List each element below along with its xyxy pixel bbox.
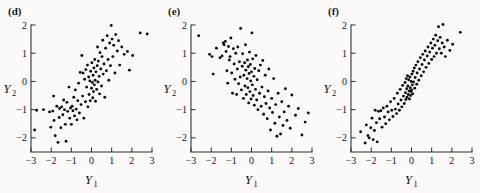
data-point [108, 42, 111, 45]
data-point [427, 62, 430, 65]
data-point [83, 78, 86, 81]
data-point [282, 124, 285, 127]
data-point [244, 69, 247, 72]
data-point [246, 77, 249, 80]
data-point [423, 59, 426, 62]
data-point [253, 67, 256, 70]
data-point [427, 46, 430, 49]
data-point [250, 70, 253, 73]
data-point [42, 108, 45, 111]
data-point [378, 117, 381, 120]
data-point [89, 99, 92, 102]
data-point [428, 51, 431, 54]
data-point [105, 69, 108, 72]
x-tick-label: 0 [249, 155, 254, 166]
data-point [233, 63, 236, 66]
data-point [252, 75, 255, 78]
data-point [242, 74, 245, 77]
data-point [430, 58, 433, 61]
data-point [82, 72, 85, 75]
data-point [439, 36, 442, 39]
data-point [79, 71, 82, 74]
data-point [279, 132, 282, 135]
data-point [384, 122, 387, 125]
data-point [278, 116, 281, 119]
data-point [88, 79, 91, 82]
data-point [416, 72, 419, 75]
panel-d: (d) −3−2−10123−2−1012Y1Y2 [0, 0, 160, 193]
data-point [93, 83, 96, 86]
data-point [94, 100, 97, 103]
data-point [99, 51, 102, 54]
data-point [286, 119, 289, 122]
data-point [58, 116, 61, 119]
data-point [60, 105, 63, 108]
data-point [254, 54, 257, 57]
data-point [231, 92, 234, 95]
data-point [80, 54, 83, 57]
data-point [412, 81, 415, 84]
data-point [84, 68, 87, 71]
data-point [260, 105, 263, 108]
data-point [54, 134, 57, 137]
data-point [433, 44, 436, 47]
data-point [256, 78, 259, 81]
data-point [290, 94, 293, 97]
data-point [262, 113, 265, 116]
data-point [374, 109, 377, 112]
data-point [90, 87, 93, 90]
x-tick-label: −3 [26, 155, 37, 166]
data-point [139, 31, 142, 34]
y-tick-label: 0 [182, 76, 187, 87]
data-point [113, 72, 116, 75]
data-point [94, 70, 97, 73]
data-point [397, 103, 400, 106]
x-tick-label: −2 [206, 155, 217, 166]
data-point [371, 117, 374, 120]
data-point [211, 55, 214, 58]
data-point [246, 86, 249, 89]
data-point [385, 105, 388, 108]
data-point [307, 112, 310, 115]
data-point [106, 34, 109, 37]
data-point [74, 88, 77, 91]
data-point [120, 46, 123, 49]
data-point [146, 33, 149, 36]
data-point [359, 130, 362, 133]
data-point [77, 82, 80, 85]
data-point [242, 97, 245, 100]
data-point [35, 109, 38, 112]
data-point [249, 79, 252, 82]
data-point [104, 47, 107, 50]
y-tick-label: 2 [342, 20, 347, 31]
data-point [277, 92, 280, 95]
data-point [403, 102, 406, 105]
data-point [61, 113, 64, 116]
data-point [255, 99, 258, 102]
data-point [261, 59, 264, 62]
data-point [408, 97, 411, 100]
data-point [248, 72, 251, 75]
data-point [76, 99, 79, 102]
data-point [90, 61, 93, 64]
x-tick-label: −3 [186, 155, 197, 166]
data-point [389, 100, 392, 103]
x-axis-title-subscript: 1 [413, 179, 417, 189]
data-point [410, 80, 413, 83]
data-point [275, 135, 278, 138]
data-point [87, 75, 90, 78]
data-point [244, 85, 247, 88]
data-point [128, 69, 131, 72]
data-point [421, 53, 424, 56]
data-point [86, 64, 89, 67]
data-point [265, 102, 268, 105]
data-point [274, 103, 277, 106]
data-point [446, 39, 449, 42]
data-point [112, 44, 115, 47]
y-tick-label: 2 [22, 20, 27, 31]
data-point [432, 38, 435, 41]
data-point [123, 53, 126, 56]
data-point [264, 74, 267, 77]
data-point [266, 117, 269, 120]
data-point [411, 83, 414, 86]
